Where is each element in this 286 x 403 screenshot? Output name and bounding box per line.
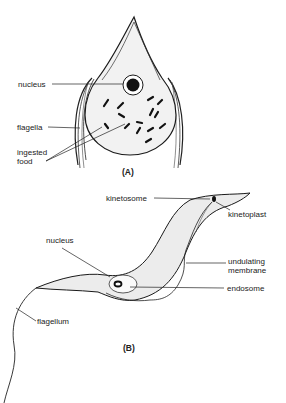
label-b-nucleus: nucleus <box>46 236 74 245</box>
label-a-nucleus: nucleus <box>18 80 46 89</box>
label-b-kinetoplast: kinetoplast <box>228 210 266 219</box>
label-b-kinetosome: kinetosome <box>106 194 147 203</box>
label-b-endosome: endosome <box>227 284 264 293</box>
label-a-food: food <box>17 157 33 166</box>
label-b-undulating: undulating <box>228 257 265 266</box>
figure-a-organism <box>46 17 183 168</box>
figure-b-organism <box>4 193 250 403</box>
label-a-flagella: flagella <box>17 123 42 132</box>
label-b-membrane: membrane <box>228 266 266 275</box>
label-b-flagellum: flagellum <box>37 317 69 326</box>
caption-a: (A) <box>122 167 134 177</box>
label-a-ingested: ingested <box>17 148 47 157</box>
caption-b: (B) <box>123 343 135 353</box>
